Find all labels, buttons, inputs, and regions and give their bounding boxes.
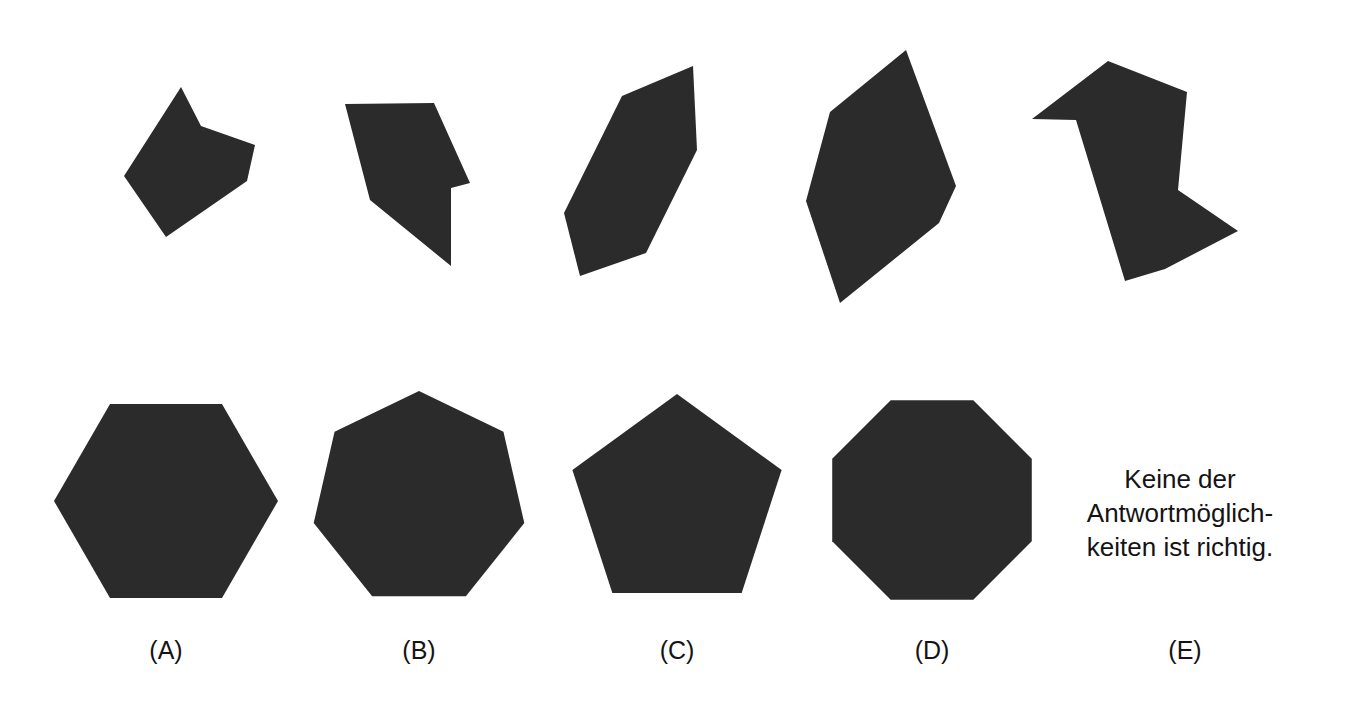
option-shape-a-hexagon[interactable] (54, 404, 278, 598)
option-shapes-group (54, 391, 1032, 600)
option-label-c[interactable]: (C) (660, 636, 695, 665)
answer-text-line-2: Antwortmöglich- (1070, 496, 1290, 530)
option-label-d[interactable]: (D) (915, 636, 950, 665)
option-shape-b-heptagon[interactable] (314, 391, 525, 596)
shapes-canvas (0, 0, 1361, 713)
irregular-piece-4[interactable] (806, 50, 956, 303)
irregular-piece-1[interactable] (124, 87, 255, 237)
answer-text-line-1: Keine der (1070, 462, 1290, 496)
irregular-pieces-group (124, 50, 1238, 303)
option-label-a[interactable]: (A) (149, 636, 182, 665)
irregular-piece-5[interactable] (1032, 61, 1238, 281)
option-shape-c-pentagon[interactable] (572, 394, 781, 593)
option-shape-d-octagon[interactable] (832, 400, 1032, 600)
answer-text-line-3: keiten ist richtig. (1070, 530, 1290, 564)
option-e-answer-text[interactable]: Keine der Antwortmöglich- keiten ist ric… (1070, 462, 1290, 564)
puzzle-sheet: Keine der Antwortmöglich- keiten ist ric… (0, 0, 1361, 713)
irregular-piece-2[interactable] (345, 103, 470, 266)
irregular-piece-3[interactable] (564, 66, 697, 276)
option-label-e[interactable]: (E) (1168, 636, 1201, 665)
option-label-b[interactable]: (B) (402, 636, 435, 665)
